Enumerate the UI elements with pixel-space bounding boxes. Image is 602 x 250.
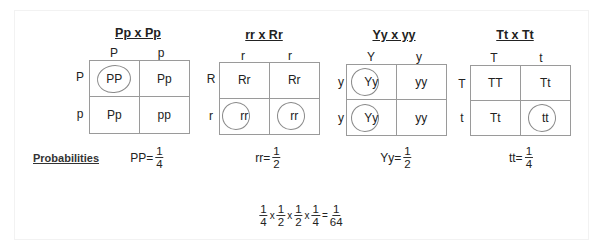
numerator: 1 (272, 145, 280, 158)
column-allele: t (539, 51, 542, 65)
row-allele: y (338, 75, 344, 89)
fraction: 12 (272, 145, 280, 170)
numerator: 1 (277, 203, 285, 216)
punnett-cell: Tt (521, 66, 571, 101)
column-allele: P (110, 46, 118, 60)
fraction: 12 (294, 203, 302, 228)
punnett-cell: TT (471, 66, 521, 101)
genotype: TT (488, 76, 503, 90)
denominator: 4 (526, 158, 532, 170)
multiply-sign: x (287, 210, 292, 221)
square-title: Pp x Pp (115, 26, 161, 40)
square-title: Tt x Tt (496, 28, 534, 42)
punnett-cell: tt (521, 101, 571, 136)
genotype: PP (106, 72, 122, 86)
probability-rr: rr= 12 (255, 145, 280, 170)
fraction: 14 (155, 145, 163, 170)
fraction: 14 (525, 145, 533, 170)
genotype: Pp (107, 108, 122, 122)
punnett-grid: Yy yy Yy yy (346, 64, 447, 136)
punnett-cell: Yy (347, 100, 397, 135)
punnett-cell: Rr (220, 63, 270, 99)
row-allele: y (338, 111, 344, 125)
punnett-grid: PP Pp Pp pp (89, 60, 190, 134)
genotype: rr (290, 109, 298, 123)
genotype: Pp (157, 72, 172, 86)
numerator: 1 (332, 203, 340, 216)
genotype: Tt (490, 111, 501, 125)
punnett-cell: rr (220, 99, 270, 135)
fraction: 12 (277, 203, 285, 228)
numerator: 1 (294, 203, 302, 216)
multiply-sign: x (305, 210, 310, 221)
equals-sign: = (322, 210, 328, 221)
punnett-cell: Rr (270, 63, 320, 99)
row-allele: T (458, 77, 465, 91)
punnett-cell: Tt (471, 101, 521, 136)
column-allele: Y (367, 50, 375, 64)
row-allele: r (209, 109, 213, 123)
square-title: Yy x yy (372, 28, 415, 42)
punnett-cell: pp (140, 97, 190, 133)
probability-label: rr= (255, 151, 270, 165)
genotype: tt (542, 111, 549, 125)
denominator: 4 (156, 158, 162, 170)
numerator: 1 (259, 203, 267, 216)
genotype: Rr (288, 73, 301, 87)
punnett-cell: Pp (140, 61, 190, 97)
punnett-cell: Yy (347, 65, 397, 100)
fraction: 14 (312, 203, 320, 228)
numerator: 1 (525, 145, 533, 158)
genotype: Rr (238, 73, 251, 87)
punnett-cell: yy (397, 100, 447, 135)
punnett-cell: rr (270, 99, 320, 135)
row-allele: P (76, 70, 84, 84)
genotype: yy (415, 75, 427, 89)
genotype: Yy (364, 111, 378, 125)
genotype: Yy (364, 75, 378, 89)
probability-pp: PP= 14 (130, 145, 163, 170)
denominator: 2 (295, 216, 301, 228)
genotype: yy (415, 111, 427, 125)
denominator: 2 (404, 158, 410, 170)
fraction: 14 (259, 203, 267, 228)
genotype: Tt (540, 76, 551, 90)
column-allele: T (490, 51, 497, 65)
multiply-sign: x (270, 210, 275, 221)
genotype: rr (240, 109, 248, 123)
denominator: 2 (273, 158, 279, 170)
column-allele: r (288, 49, 292, 63)
probability-label: tt= (509, 151, 523, 165)
row-allele: p (77, 107, 84, 121)
fraction: 12 (403, 145, 411, 170)
probability-label: Yy= (380, 151, 401, 165)
probabilities-heading: Probabilities (33, 152, 99, 164)
probability-label: PP= (130, 151, 153, 165)
probability-yy: Yy= 12 (380, 145, 411, 170)
row-allele: R (207, 72, 216, 86)
punnett-grid: TT Tt Tt tt (470, 65, 571, 136)
punnett-cell: PP (90, 61, 140, 97)
denominator: 2 (278, 216, 284, 228)
row-allele: t (460, 111, 463, 125)
column-allele: r (241, 49, 245, 63)
denominator: 4 (260, 216, 266, 228)
denominator: 4 (313, 216, 319, 228)
punnett-cell: Pp (90, 97, 140, 133)
probability-tt: tt= 14 (509, 145, 533, 170)
combined-probability-equation: 14 x 12 x 12 x 14 = 164 (259, 203, 342, 228)
square-title: rr x Rr (245, 28, 283, 42)
column-allele: p (158, 46, 165, 60)
denominator: 64 (330, 216, 343, 228)
result-fraction: 164 (330, 203, 343, 228)
punnett-cell: yy (397, 65, 447, 100)
numerator: 1 (155, 145, 163, 158)
punnett-grid: Rr Rr rr rr (219, 62, 320, 135)
column-allele: y (416, 50, 422, 64)
numerator: 1 (403, 145, 411, 158)
numerator: 1 (312, 203, 320, 216)
genotype: pp (158, 108, 171, 122)
